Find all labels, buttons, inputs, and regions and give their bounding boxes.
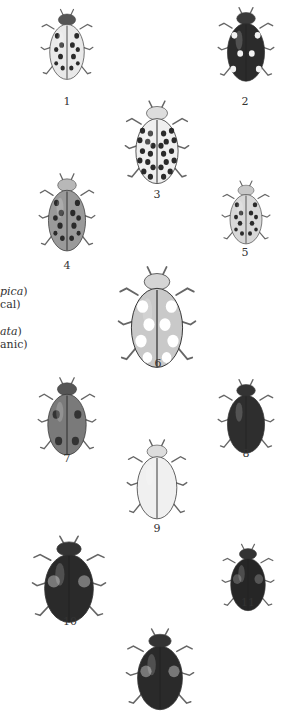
figure-number-4: 4 bbox=[52, 259, 82, 272]
figure-number-2: 2 bbox=[230, 95, 260, 108]
side-caption-line-3: ata) bbox=[0, 325, 22, 338]
beetle-icon bbox=[38, 170, 96, 256]
side-caption-line-1: pica) bbox=[0, 285, 28, 298]
ladybird-figure-3 bbox=[124, 97, 190, 189]
figure-number-9: 9 bbox=[142, 522, 172, 535]
figure-number-6: 6 bbox=[143, 357, 173, 370]
species-name-fragment: pica bbox=[0, 285, 23, 298]
figure-number-8: 8 bbox=[231, 447, 261, 460]
ladybird-figure-5 bbox=[221, 178, 271, 248]
ladybird-figure-8 bbox=[217, 376, 275, 458]
beetle-icon bbox=[221, 178, 271, 248]
figure-number-7: 7 bbox=[52, 452, 82, 465]
figure-number-11: 11 bbox=[233, 596, 263, 609]
paren: ) bbox=[18, 325, 22, 338]
ladybird-figure-1 bbox=[40, 6, 94, 84]
ladybird-figure-2 bbox=[217, 4, 275, 86]
beetle-icon bbox=[40, 6, 94, 84]
ladybird-figure-7 bbox=[37, 374, 97, 460]
beetle-icon bbox=[217, 376, 275, 458]
side-caption-line-4: anic) bbox=[0, 338, 28, 351]
beetle-icon bbox=[37, 374, 97, 460]
beetle-icon bbox=[217, 4, 275, 86]
ladybird-figure-10 bbox=[31, 532, 107, 628]
species-name-fragment: ata bbox=[0, 325, 18, 338]
figure-number-3: 3 bbox=[142, 188, 172, 201]
side-caption-line-2: cal) bbox=[0, 298, 21, 311]
beetle-icon bbox=[125, 625, 195, 712]
paren: ) bbox=[23, 285, 27, 298]
figure-number-5: 5 bbox=[230, 246, 260, 259]
beetle-icon bbox=[124, 97, 190, 189]
ladybird-figure-9 bbox=[126, 436, 188, 524]
beetle-icon bbox=[31, 532, 107, 628]
figure-number-1: 1 bbox=[52, 95, 82, 108]
ladybird-figure-4 bbox=[38, 170, 96, 256]
ladybird-figure-12 bbox=[125, 625, 195, 712]
figure-number-10: 10 bbox=[55, 615, 85, 628]
beetle-icon bbox=[126, 436, 188, 524]
